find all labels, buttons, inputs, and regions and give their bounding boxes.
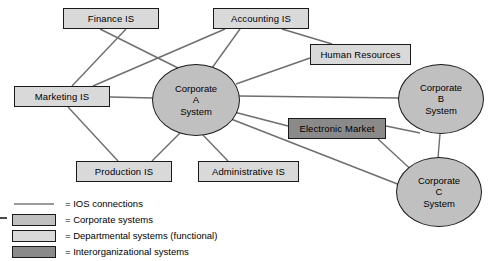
- node-label: Corporate B System: [420, 82, 462, 117]
- node-label-line-3: System: [180, 106, 212, 117]
- margin-tick-mark: [0, 217, 7, 219]
- node-marketing-is[interactable]: Marketing IS: [14, 86, 110, 107]
- node-label: Accounting IS: [231, 13, 291, 24]
- edge-production-corporate-a: [152, 133, 180, 161]
- node-label-line-3: System: [423, 198, 455, 209]
- node-production-is[interactable]: Production IS: [76, 161, 172, 182]
- legend-label: = Departmental systems (functional): [65, 230, 217, 241]
- node-label-line-2: A: [193, 94, 199, 105]
- node-human-resources[interactable]: Human Resources: [310, 44, 411, 65]
- node-label: Electronic Market: [299, 123, 374, 134]
- node-label: Corporate C System: [418, 175, 460, 210]
- legend: = IOS connections = Corporate systems = …: [12, 196, 272, 260]
- edge-accounting-corporate-a: [212, 29, 240, 68]
- legend-label: = Interorganizational systems: [65, 246, 189, 257]
- edge-marketing-corporate-a: [110, 97, 154, 98]
- corporate-swatch-icon: [12, 214, 56, 226]
- node-accounting-is[interactable]: Accounting IS: [213, 8, 309, 29]
- edge-finance-corporate-a: [100, 29, 178, 68]
- node-label-line-2: C: [436, 186, 443, 197]
- interorganizational-swatch-icon: [12, 246, 56, 258]
- legend-item-connections: = IOS connections: [12, 196, 272, 211]
- node-corporate-c-system[interactable]: Corporate C System: [396, 157, 482, 227]
- node-label: Administrative IS: [212, 166, 285, 177]
- node-label-line-1: Corporate: [420, 82, 462, 93]
- node-label-line-1: Corporate: [418, 175, 460, 186]
- node-label: Human Resources: [320, 49, 400, 60]
- legend-label: = Corporate systems: [65, 214, 153, 225]
- legend-item-interorganizational: = Interorganizational systems: [12, 244, 272, 259]
- node-label: Marketing IS: [35, 91, 90, 102]
- legend-item-corporate: = Corporate systems: [12, 212, 272, 227]
- connection-line-icon: [12, 198, 56, 209]
- legend-label: = IOS connections: [65, 198, 143, 209]
- node-corporate-b-system[interactable]: Corporate B System: [398, 64, 484, 134]
- edge-marketing-production: [68, 107, 118, 161]
- node-label-line-2: B: [438, 93, 444, 104]
- edge-accounting-human-resources: [282, 29, 332, 44]
- node-label: Production IS: [95, 166, 153, 177]
- node-label: Corporate A System: [175, 83, 217, 118]
- node-corporate-a-system[interactable]: Corporate A System: [152, 64, 240, 136]
- edge-human-resources-corporate-a: [236, 58, 310, 84]
- departmental-swatch-icon: [12, 230, 56, 242]
- legend-item-departmental: = Departmental systems (functional): [12, 228, 272, 243]
- edge-corporate-a-corporate-b: [239, 96, 399, 98]
- node-label-line-3: System: [425, 105, 457, 116]
- node-administrative-is[interactable]: Administrative IS: [198, 161, 299, 182]
- edge-finance-marketing: [72, 29, 126, 86]
- edge-administrative-corporate-a: [202, 134, 228, 161]
- node-finance-is[interactable]: Finance IS: [63, 8, 159, 29]
- node-electronic-market[interactable]: Electronic Market: [288, 118, 386, 139]
- diagram-canvas: Finance IS Accounting IS Human Resources…: [0, 0, 496, 261]
- node-label-line-1: Corporate: [175, 83, 217, 94]
- edge-corporate-b-corporate-c: [438, 134, 440, 158]
- node-label: Finance IS: [88, 13, 134, 24]
